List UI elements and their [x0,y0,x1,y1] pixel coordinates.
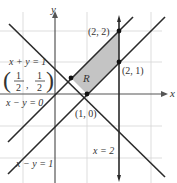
x-axis-arrow-icon [161,91,168,97]
x-axis-label: x [169,87,175,99]
x-eq-2-arrow-down-icon [117,175,121,182]
svg-text:,: , [26,79,29,90]
svg-text:2: 2 [16,82,21,93]
point-1-0 [85,92,90,97]
label-x-minus-y-eq-0: x − y = 0 [5,97,43,108]
point-2-2 [117,29,122,34]
point-2-1 [117,60,122,65]
svg-text:1: 1 [16,70,21,81]
svg-text:1: 1 [37,70,42,81]
x-eq-2-arrow-up-icon [117,15,121,22]
label-x-eq-2: x = 2 [92,145,114,156]
region-r [71,31,119,94]
y-axis-label: y [50,3,56,15]
point-label-2-2: (2, 2) [88,26,110,38]
svg-text:(: ( [3,67,11,93]
point-label-1-0: (1, 0) [75,108,97,120]
point-label-half-half: ( 1 2 , 1 2 ) [3,67,54,93]
label-x-minus-y-eq-1: x − y = 1 [15,158,53,169]
point-half-half [69,76,74,81]
svg-text:2: 2 [37,82,42,93]
region-label: R [82,72,90,84]
diagram-canvas: y x R (2, 2) (2, 1) (1, 0) ( 1 2 , 1 2 )… [0,0,177,183]
point-label-2-1: (2, 1) [122,65,144,77]
label-x-plus-y-eq-1: x + y = 1 [8,56,46,67]
svg-text:): ) [46,67,54,93]
